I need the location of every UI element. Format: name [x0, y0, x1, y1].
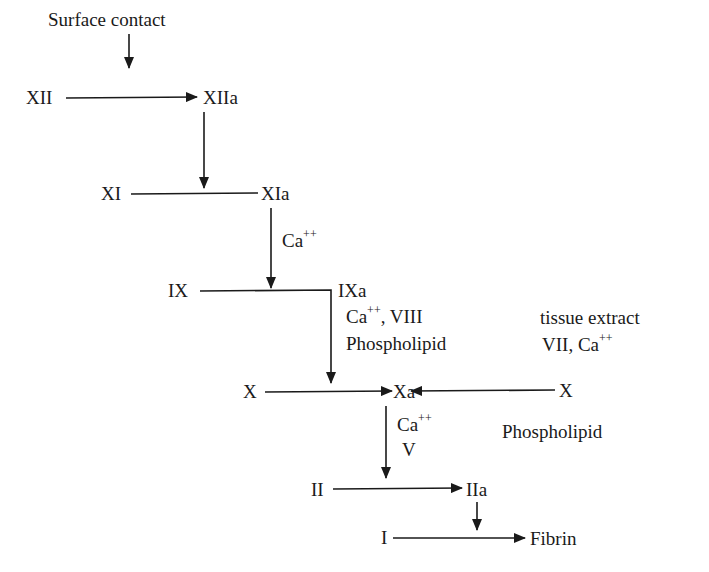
ii-to-iia-arrow	[333, 488, 462, 489]
node-x-extrinsic: X	[559, 380, 573, 401]
node-iia: IIa	[466, 479, 488, 500]
xii-to-xiia-arrow	[66, 97, 197, 98]
extrinsic-tissue-extract: tissue extract	[540, 307, 640, 328]
coagulation-cascade-diagram: Surface contact XII XIIa XI XIa Ca++ IX …	[0, 0, 709, 572]
node-xiia: XIIa	[203, 87, 238, 108]
x-to-xa-intrinsic-arrow	[265, 391, 392, 392]
cofactor-ca-xa: Ca++	[397, 411, 432, 435]
node-ix: IX	[168, 280, 188, 301]
cofactor-ca-viii: Ca++, VIII	[346, 303, 423, 327]
x-to-xa-extrinsic-arrow	[411, 390, 555, 391]
extrinsic-vii-ca: VII, Ca++	[542, 331, 613, 355]
xi-to-xia-line	[131, 193, 258, 194]
cofactor-v: V	[402, 439, 416, 460]
node-ii: II	[311, 479, 324, 500]
node-i: I	[381, 527, 387, 548]
surface-contact-label: Surface contact	[48, 9, 166, 30]
cofactor-phospholipid-ixa: Phospholipid	[346, 333, 447, 354]
cofactor-ca-xia: Ca++	[282, 227, 317, 251]
node-x-intrinsic: X	[243, 381, 257, 402]
node-xi: XI	[101, 183, 121, 204]
node-fibrin: Fibrin	[530, 528, 577, 549]
ixa-activation-arrow	[200, 290, 331, 383]
cofactor-phospholipid-xa: Phospholipid	[502, 421, 603, 442]
node-xii: XII	[26, 87, 52, 108]
node-ixa: IXa	[338, 280, 367, 301]
node-xia: XIa	[261, 183, 290, 204]
